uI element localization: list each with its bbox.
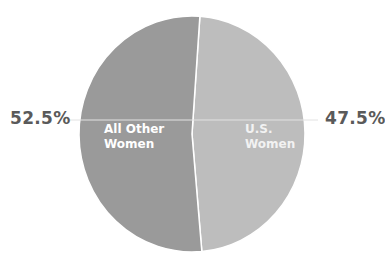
slice-label-line: U.S. [245, 122, 295, 137]
slice-label-line: All Other [104, 122, 164, 137]
slice-label-line: Women [104, 137, 164, 152]
slice-label-line: Women [245, 137, 295, 152]
pct-label-us-women: 47.5% [325, 108, 385, 128]
slice-label-other-women: All Other Women [104, 122, 164, 152]
pct-label-other-women: 52.5% [10, 108, 70, 128]
slice-label-us-women: U.S. Women [245, 122, 295, 152]
